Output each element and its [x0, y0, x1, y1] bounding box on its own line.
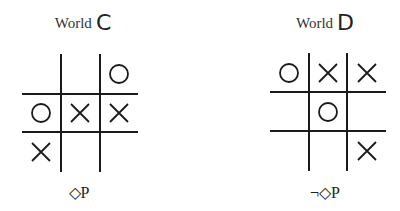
x-mark-icon — [32, 143, 50, 161]
o-mark-icon — [32, 104, 50, 122]
x-mark-icon — [319, 64, 337, 82]
world-d-title-prefix: World — [296, 15, 333, 31]
x-mark-icon — [358, 142, 376, 160]
world-d-board — [270, 53, 388, 173]
world-c-title: WorldC — [55, 10, 112, 35]
world-c-title-prefix: World — [55, 15, 92, 31]
world-d-title: WorldD — [296, 10, 354, 35]
world-d-formula: ¬◇P — [310, 183, 340, 202]
x-mark-icon — [358, 64, 376, 82]
x-mark-icon — [71, 104, 89, 122]
o-mark-icon — [110, 65, 128, 83]
world-c-title-letter: C — [96, 10, 111, 35]
world-d-title-letter: D — [337, 10, 354, 35]
world-c-formula: ◇P — [69, 183, 90, 202]
world-c-board — [22, 54, 140, 174]
o-mark-icon — [319, 103, 337, 121]
x-mark-icon — [110, 104, 128, 122]
o-mark-icon — [280, 64, 298, 82]
